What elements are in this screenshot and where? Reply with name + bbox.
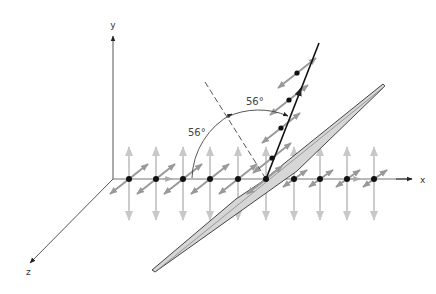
incidence-angle-label: 56° bbox=[188, 127, 206, 138]
vertical-polarization-vectors bbox=[129, 147, 374, 220]
brewster-diagram: y x z 56° 56° bbox=[0, 0, 436, 294]
z-axis bbox=[30, 179, 113, 263]
diagonal-polarization-vectors bbox=[110, 58, 387, 194]
y-axis-label: y bbox=[110, 20, 116, 30]
coordinate-axes: y x z bbox=[26, 20, 426, 277]
z-axis-label: z bbox=[26, 267, 31, 277]
reflection-angle-label: 56° bbox=[246, 96, 264, 107]
x-axis-label: x bbox=[420, 175, 426, 185]
angle-arcs bbox=[192, 110, 288, 178]
